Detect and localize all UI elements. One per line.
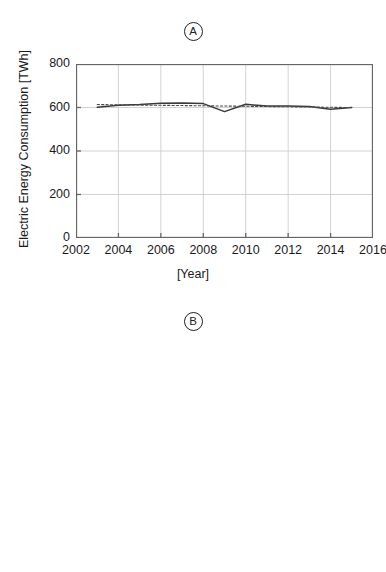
figure: A Electric Energy Consumption [TWh] [Yea… [0, 0, 386, 572]
x-tick-label: 2006 [139, 244, 183, 257]
x-tick-label: 2008 [181, 244, 225, 257]
panel-a-svg [76, 64, 373, 238]
panel-a-label: A [0, 22, 386, 41]
y-tick-label: 0 [18, 231, 70, 244]
y-tick-label: 200 [18, 188, 70, 201]
x-tick-label: 2010 [224, 244, 268, 257]
y-tick-label: 400 [18, 144, 70, 157]
panel-b-label-text: B [184, 312, 203, 331]
y-tick-label: 800 [18, 57, 70, 70]
x-tick-label: 2004 [96, 244, 140, 257]
panel-b: B Electric Energy Consumption [TWh] [Yea… [0, 290, 386, 572]
x-tick-label: 2016 [351, 244, 386, 257]
panel-b-label: B [0, 312, 386, 331]
x-tick-label: 2002 [54, 244, 98, 257]
panel-a-label-text: A [184, 22, 203, 41]
panel-a: A Electric Energy Consumption [TWh] [Yea… [0, 0, 386, 290]
panel-a-x-axis-label: [Year] [0, 267, 386, 281]
panel-a-plot-area: 0200400600800200220042006200820102012201… [76, 64, 373, 238]
x-tick-label: 2014 [309, 244, 353, 257]
y-tick-label: 600 [18, 101, 70, 114]
x-tick-label: 2012 [266, 244, 310, 257]
